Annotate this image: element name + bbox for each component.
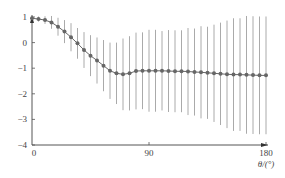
data-point [167, 69, 171, 73]
data-point [258, 73, 262, 77]
x-axis-label: θ/(°) [258, 159, 275, 169]
data-point [219, 72, 223, 76]
plot-area: 10−1−2−3−4090180θ/(°) [0, 0, 285, 178]
data-point [50, 20, 54, 24]
x-tick-label: 0 [32, 148, 37, 158]
y-tick-label: 0 [23, 38, 28, 48]
data-point [186, 70, 190, 74]
data-point [95, 59, 99, 63]
data-point [134, 69, 138, 73]
data-point [43, 18, 47, 22]
data-point [232, 73, 236, 77]
data-point [264, 73, 268, 77]
data-point [37, 17, 41, 21]
data-point [141, 69, 145, 73]
data-point [160, 69, 164, 73]
y-tick-label: −4 [17, 140, 27, 150]
data-point [128, 71, 132, 75]
data-point [30, 16, 34, 20]
data-point [206, 71, 210, 75]
data-point [199, 70, 203, 74]
x-axis-arrow-icon [261, 143, 268, 147]
data-point [82, 48, 86, 52]
data-point [89, 54, 93, 58]
data-point [251, 73, 255, 77]
data-point [173, 69, 177, 73]
data-point [69, 35, 73, 39]
data-point [56, 25, 60, 29]
data-point [238, 73, 242, 77]
y-tick-label: −3 [17, 114, 27, 124]
y-tick-label: 1 [23, 12, 28, 22]
data-point [180, 69, 184, 73]
data-point [225, 72, 229, 76]
data-point [147, 69, 151, 73]
data-point [245, 73, 249, 77]
data-point [63, 30, 67, 34]
data-point [115, 71, 119, 75]
x-tick-label: 90 [145, 148, 155, 158]
data-point [121, 72, 125, 76]
y-tick-label: −1 [17, 63, 27, 73]
x-tick-label: 180 [259, 148, 273, 158]
data-point [154, 69, 158, 73]
data-point [193, 70, 197, 74]
data-point [76, 41, 80, 45]
data-point [212, 71, 216, 75]
chart: 10−1−2−3−4090180θ/(°) [0, 0, 285, 178]
data-point [102, 64, 106, 68]
data-point [108, 69, 112, 73]
y-tick-label: −2 [17, 89, 27, 99]
